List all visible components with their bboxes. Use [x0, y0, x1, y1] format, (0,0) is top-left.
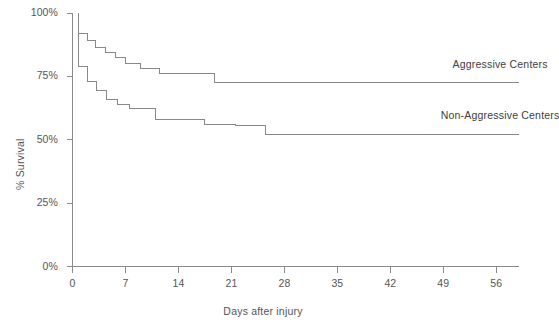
x-axis-title: Days after injury: [0, 305, 526, 317]
series-line-aggressive-centers: [79, 13, 519, 83]
x-axis-tick-label: 56: [471, 277, 521, 289]
x-axis-tick-label: 28: [259, 277, 309, 289]
x-axis-tick-label: 0: [48, 277, 98, 289]
x-axis-tick-label: 21: [206, 277, 256, 289]
x-axis-tick-label: 35: [312, 277, 362, 289]
y-axis-title: % Survival: [14, 138, 26, 190]
x-axis-tick-label: 14: [153, 277, 203, 289]
x-axis-tick-label: 49: [418, 277, 468, 289]
series-label-aggressive-centers: Aggressive Centers: [452, 58, 547, 70]
y-axis-tick-label: 0%: [8, 260, 58, 272]
y-axis-tick-label: 25%: [8, 196, 58, 208]
axis-group: [67, 13, 520, 273]
x-axis-tick-label: 42: [365, 277, 415, 289]
x-axis-tick-label: 7: [100, 277, 150, 289]
y-axis-tick-label: 100%: [8, 6, 58, 18]
series-label-non-aggressive-centers: Non-Aggressive Centers: [441, 109, 559, 121]
y-axis-tick-label: 75%: [8, 69, 58, 81]
